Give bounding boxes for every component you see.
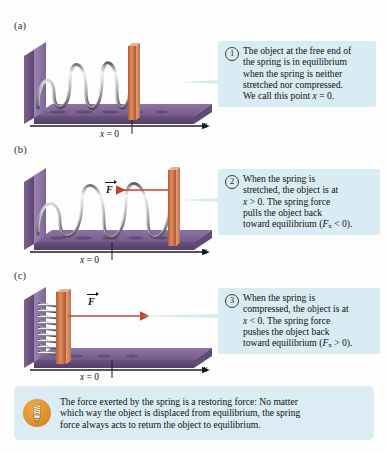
callout-a-line-3: when the spring is neither <box>243 68 342 79</box>
callout-c-line-1: When the spring is <box>243 292 315 303</box>
lightbulb-glyph <box>34 405 41 422</box>
panel-a-callout-text: The object at the free end of the spring… <box>243 45 351 101</box>
origin-equals-zero: = 0 <box>104 129 119 139</box>
panel-b-callout-pointer <box>180 198 222 202</box>
summary-tip-text: The force exerted by the spring is a res… <box>60 396 310 431</box>
wall-front-face-c <box>24 294 34 368</box>
callout-c-line-4: pushes the object back <box>243 326 330 337</box>
callout-b-line-3: x > 0. The spring force <box>243 196 330 207</box>
force-vector-symbol-b: F <box>106 184 113 195</box>
block-side-face-c <box>66 289 71 364</box>
panel-c-force-label: F <box>88 296 95 307</box>
block-side-face-b <box>176 167 180 246</box>
panel-a-illustration <box>16 34 216 139</box>
callout-a-line-2: the spring is in equilibrium <box>243 56 347 67</box>
base-front-face <box>34 116 194 124</box>
block-side-face <box>136 43 140 120</box>
tip-line-1: The force exerted by the spring is a res… <box>60 396 298 407</box>
panel-c-callout-text: When the spring is compressed, the objec… <box>243 292 352 351</box>
callout-b-line-2: stretched, the object is at <box>243 184 338 195</box>
panel-a-callout-pointer <box>180 80 222 84</box>
panel-b-illustration <box>16 160 216 268</box>
callout-a-line-4: stretched nor compressed. <box>243 79 343 90</box>
callout-b-line-1: When the spring is <box>243 173 315 184</box>
panel-letter-a: (a) <box>14 20 26 31</box>
panel-c-origin-label: x = 0 <box>80 372 99 382</box>
panel-b-origin-label: x = 0 <box>80 255 99 265</box>
panel-b-callout: 2 When the spring is stretched, the obje… <box>218 169 380 235</box>
panel-c-callout: 3 When the spring is compressed, the obj… <box>218 288 380 354</box>
callout-badge-2: 2 <box>225 175 239 189</box>
callout-a-line-1: The object at the free end of <box>243 45 351 56</box>
callout-b-line-4: pulls the object back <box>243 207 322 218</box>
panel-b-axis-label: x <box>203 246 207 256</box>
callout-c-line-2: compressed, the object is at <box>243 303 349 314</box>
summary-tip-box: The force exerted by the spring is a res… <box>14 386 374 440</box>
panel-b-force-label: F <box>106 184 113 195</box>
callout-c-line-3: x < 0. The spring force <box>243 315 330 326</box>
tip-line-3: force always acts to return the object t… <box>60 419 261 430</box>
origin-equals-zero-c: = 0 <box>84 372 99 382</box>
wall-front-face-b <box>24 176 34 250</box>
panel-a-callout: 1 The object at the free end of the spri… <box>218 41 376 107</box>
block-front-face-b <box>168 170 176 246</box>
lightbulb-icon <box>23 399 51 427</box>
callout-b-line-5: toward equilibrium (Fx < 0). <box>243 218 352 229</box>
panel-c-axis-label: x <box>203 364 207 374</box>
panel-a-origin-label: x = 0 <box>100 129 119 139</box>
panel-a-axis-label: x <box>203 120 207 130</box>
panel-c-illustration <box>16 282 216 382</box>
block-front-face <box>128 46 136 120</box>
wall-front-face <box>24 50 34 124</box>
panel-b-callout-text: When the spring is stretched, the object… <box>243 173 352 232</box>
block-front-face-c <box>56 292 66 364</box>
origin-equals-zero-b: = 0 <box>84 255 99 265</box>
tip-line-2: which way the object is displaced from e… <box>60 407 300 418</box>
callout-a-line-5: We call this point x = 0. <box>243 90 334 101</box>
panel-c-callout-pointer <box>136 314 218 318</box>
callout-c-line-5: toward equilibrium (Fx > 0). <box>243 337 352 348</box>
panel-letter-c: (c) <box>14 270 26 281</box>
force-vector-symbol-c: F <box>88 296 95 307</box>
panel-letter-b: (b) <box>14 144 27 155</box>
callout-badge-3: 3 <box>225 294 239 308</box>
wall-side-face-c <box>34 287 46 362</box>
spring-force-figure: (a) <box>0 0 388 453</box>
callout-badge-1: 1 <box>225 47 239 61</box>
